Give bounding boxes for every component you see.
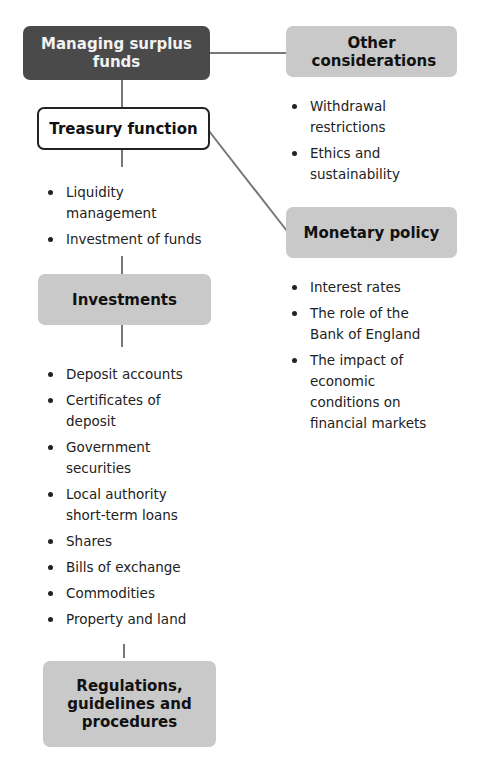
list-item: Certificates of deposit (43, 390, 186, 432)
treasury-list: Liquidity management Investment of funds (43, 182, 213, 255)
monetary-policy-node: Monetary policy (286, 207, 457, 258)
list-item: Government securities (43, 437, 166, 479)
list-item: Liquidity management (43, 182, 161, 224)
list-item: Ethics and sustainability (287, 143, 420, 185)
other-considerations-label: Other considerations (312, 34, 432, 70)
list-item: The role of the Bank of England (287, 303, 430, 345)
root-node: Managing surplus funds (23, 26, 210, 80)
investments-label: Investments (72, 291, 177, 309)
regulations-label: Regulations, guidelines and procedures (67, 677, 192, 731)
list-item: Property and land (43, 609, 233, 630)
list-item: Bills of exchange (43, 557, 233, 578)
investments-list: Deposit accounts Certificates of deposit… (43, 364, 233, 635)
investments-node: Investments (38, 274, 211, 325)
monetary-policy-label: Monetary policy (304, 224, 440, 242)
regulations-node: Regulations, guidelines and procedures (43, 661, 216, 747)
list-item: Local authority short-term loans (43, 484, 196, 526)
root-node-label: Managing surplus funds (23, 35, 210, 71)
list-item: Deposit accounts (43, 364, 233, 385)
monetary-policy-list: Interest rates The role of the Bank of E… (287, 277, 437, 439)
other-considerations-list: Withdrawal restrictions Ethics and susta… (287, 96, 437, 190)
treasury-node: Treasury function (37, 107, 210, 150)
list-item: Commodities (43, 583, 233, 604)
list-item: Interest rates (287, 277, 437, 298)
list-item: Shares (43, 531, 233, 552)
list-item: Withdrawal restrictions (287, 96, 395, 138)
list-item: The impact of economic conditions on fin… (287, 350, 435, 434)
treasury-node-label: Treasury function (49, 120, 197, 138)
list-item: Investment of funds (43, 229, 213, 250)
other-considerations-node: Other considerations (286, 26, 457, 77)
